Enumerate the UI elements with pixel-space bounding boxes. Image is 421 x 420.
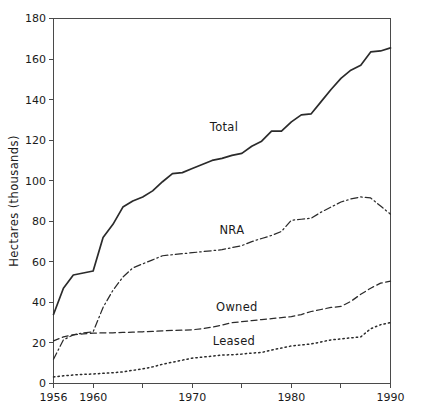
axes: [54, 19, 391, 384]
x-tick-label: 1990: [377, 391, 405, 404]
series-label-nra: NRA: [219, 223, 244, 237]
chart-plot-area: 020406080100120140160180 195619601970198…: [0, 0, 421, 420]
data-series: [54, 48, 391, 377]
y-tick-label: 120: [25, 134, 46, 147]
x-tick-labels: 19561960197019801990: [40, 391, 405, 404]
y-tick-label: 160: [25, 53, 46, 66]
y-tick-label: 140: [25, 94, 46, 107]
series-label-owned: Owned: [216, 300, 258, 314]
x-tick-label: 1960: [79, 391, 107, 404]
y-axis-title: Hectares (thousands): [7, 135, 21, 267]
x-tick-label: 1970: [178, 391, 206, 404]
y-tick-label: 180: [25, 12, 46, 25]
y-tick-label: 40: [32, 296, 46, 309]
line-chart: 020406080100120140160180 195619601970198…: [0, 0, 421, 420]
series-labels: TotalNRAOwnedLeased: [202, 120, 260, 349]
x-tick-label: 1980: [277, 391, 305, 404]
y-tick-labels: 020406080100120140160180: [25, 12, 46, 390]
series-line-total: [54, 48, 391, 315]
y-tick-label: 20: [32, 337, 46, 350]
x-tick-label: 1956: [40, 391, 68, 404]
y-tick-label: 0: [39, 377, 46, 390]
series-line-leased: [54, 323, 391, 377]
series-label-leased: Leased: [213, 334, 256, 348]
y-tick-label: 60: [32, 256, 46, 269]
y-tick-label: 100: [25, 175, 46, 188]
series-label-total: Total: [209, 120, 238, 134]
y-tick-label: 80: [32, 215, 46, 228]
